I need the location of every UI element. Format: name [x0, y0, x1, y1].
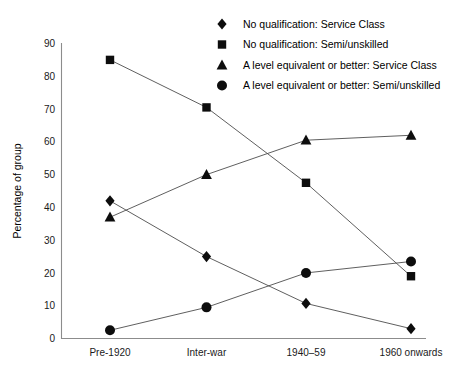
- circle-marker: [217, 81, 227, 91]
- y-tick-label: 50: [44, 169, 56, 180]
- line-chart: 0102030405060708090 Pre-1920Inter-war194…: [0, 0, 450, 382]
- legend-label: A level equivalent or better: Service Cl…: [243, 59, 437, 71]
- legend-item[interactable]: A level equivalent or better: Service Cl…: [217, 59, 437, 71]
- square-marker: [407, 272, 415, 280]
- y-tick-label: 90: [44, 38, 56, 49]
- x-tick-labels: Pre-1920Inter-war1940–591960 onwards: [89, 347, 442, 358]
- legend-item[interactable]: A level equivalent or better: Semi/unski…: [217, 79, 440, 91]
- circle-marker: [202, 302, 212, 312]
- x-tick-label: Inter-war: [187, 347, 227, 358]
- chart-legend: No qualification: Service ClassNo qualif…: [217, 18, 441, 92]
- square-marker: [218, 40, 226, 48]
- y-tick-label: 70: [44, 104, 56, 115]
- triangle-marker: [217, 59, 228, 69]
- legend-item[interactable]: No qualification: Semi/unskilled: [218, 38, 389, 50]
- x-tick-label: 1960 onwards: [380, 347, 443, 358]
- circle-marker: [105, 325, 115, 335]
- x-tick-label: Pre-1920: [89, 347, 131, 358]
- y-tick-label: 60: [44, 136, 56, 147]
- legend-item[interactable]: No qualification: Service Class: [217, 18, 384, 30]
- y-tick-labels: 0102030405060708090: [44, 38, 56, 344]
- y-tick-label: 30: [44, 235, 56, 246]
- circle-marker: [406, 256, 416, 266]
- triangle-marker: [201, 169, 212, 179]
- y-tick-label: 20: [44, 268, 56, 279]
- y-tick-label: 0: [49, 333, 55, 344]
- diamond-marker: [217, 18, 226, 29]
- diamond-marker: [105, 195, 114, 206]
- y-tick-label: 80: [44, 71, 56, 82]
- triangle-marker: [105, 212, 116, 222]
- series-line: [110, 60, 411, 276]
- data-series: [105, 195, 415, 334]
- series-line: [110, 135, 411, 217]
- chart-container: 0102030405060708090 Pre-1920Inter-war194…: [0, 0, 450, 382]
- square-marker: [202, 103, 210, 111]
- circle-marker: [301, 268, 311, 278]
- data-series-group: [105, 56, 417, 336]
- y-axis-title: Percentage of group: [11, 143, 23, 238]
- square-marker: [302, 179, 310, 187]
- triangle-marker: [406, 130, 417, 140]
- series-line: [110, 261, 411, 330]
- series-line: [110, 201, 411, 329]
- diamond-marker: [406, 323, 415, 334]
- diamond-marker: [202, 251, 211, 262]
- y-tick-label: 10: [44, 300, 56, 311]
- x-tick-label: 1940–59: [287, 347, 326, 358]
- legend-label: No qualification: Semi/unskilled: [243, 38, 388, 50]
- legend-label: A level equivalent or better: Semi/unski…: [243, 79, 440, 91]
- square-marker: [106, 56, 114, 64]
- data-series: [105, 130, 417, 222]
- y-tick-label: 40: [44, 202, 56, 213]
- legend-label: No qualification: Service Class: [243, 18, 385, 30]
- diamond-marker: [301, 298, 310, 309]
- data-series: [105, 256, 416, 335]
